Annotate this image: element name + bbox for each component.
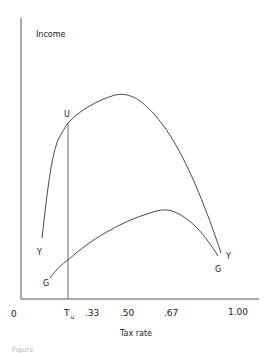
x-tick-67: .67	[164, 308, 178, 318]
point-u-label: U	[64, 110, 70, 119]
x-tick-100: 1.00	[228, 307, 248, 317]
y-axis-label: Income	[36, 30, 66, 39]
curve-g	[50, 210, 218, 278]
x-axis-label: Tax rate	[119, 329, 152, 338]
laffer-chart: Income U Y G Y G 0 Tu .33 .50 .67 1.00 T…	[0, 0, 271, 353]
x-tick-0: 0	[11, 309, 17, 319]
curve-y-left-label: Y	[36, 248, 42, 257]
x-tick-tu: Tu	[63, 308, 75, 320]
figure-caption: Figure	[12, 346, 33, 353]
curve-y-right-label: Y	[225, 252, 231, 261]
x-tick-33: .33	[85, 308, 99, 318]
curve-g-right-label: G	[215, 265, 221, 274]
x-tick-50: .50	[120, 308, 135, 318]
curve-g-left-label: G	[43, 279, 49, 288]
